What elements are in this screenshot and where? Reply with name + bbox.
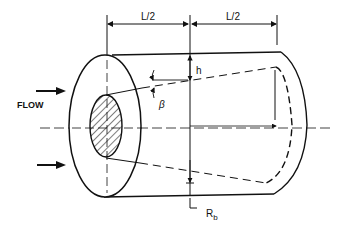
- cylinder-diagram: L/2 L/2 h Rb β: [0, 0, 343, 234]
- height-label: h: [196, 65, 202, 76]
- inner-bore-face: [90, 95, 122, 157]
- angle-label: β: [158, 99, 165, 110]
- radius-leader: [190, 198, 197, 208]
- half-length-label-right: L/2: [226, 11, 240, 22]
- half-length-label-left: L/2: [141, 11, 155, 22]
- rear-bore-dashed: [266, 67, 292, 183]
- radius-label: Rb: [206, 208, 218, 222]
- flow-label: FLOW: [17, 100, 44, 110]
